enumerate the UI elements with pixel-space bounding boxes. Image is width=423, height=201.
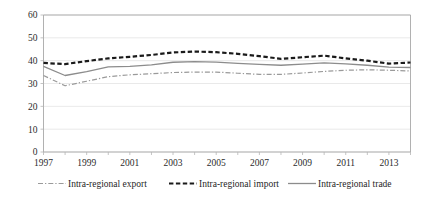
y-axis-label-60: 60 (28, 10, 38, 20)
x-axis-label-2003: 2003 (164, 158, 183, 168)
x-axis-label-1999: 1999 (77, 158, 96, 168)
x-axis-labels-group: 199719992001200320052007200920112013 (34, 158, 399, 168)
legend-label-1: Intra-regional import (199, 179, 279, 189)
data-series-group (44, 52, 411, 86)
x-axis-label-2005: 2005 (207, 158, 226, 168)
gridlines-group (44, 15, 411, 152)
legend-group: Intra-regional exportIntra-regional impo… (38, 179, 392, 189)
series-line-2 (44, 62, 411, 76)
line-chart: 0102030405060 19971999200120032005200720… (0, 0, 423, 201)
legend-label-0: Intra-regional export (68, 179, 147, 189)
x-axis-label-2011: 2011 (336, 158, 355, 168)
y-axis-label-50: 50 (28, 33, 38, 43)
x-axis-label-2009: 2009 (293, 158, 312, 168)
y-axis-label-30: 30 (28, 79, 38, 89)
y-axis-label-20: 20 (28, 102, 38, 112)
x-axis-label-2001: 2001 (120, 158, 139, 168)
y-axis-label-10: 10 (28, 125, 38, 135)
x-axis-label-2007: 2007 (250, 158, 269, 168)
y-axis-label-0: 0 (33, 147, 38, 157)
legend-label-2: Intra-regional trade (318, 179, 392, 189)
x-axis-label-1997: 1997 (34, 158, 53, 168)
chart-canvas: 0102030405060 19971999200120032005200720… (0, 0, 423, 201)
y-axis-labels-group: 0102030405060 (28, 10, 38, 157)
x-axis-label-2013: 2013 (379, 158, 398, 168)
y-axis-label-40: 40 (28, 56, 38, 66)
